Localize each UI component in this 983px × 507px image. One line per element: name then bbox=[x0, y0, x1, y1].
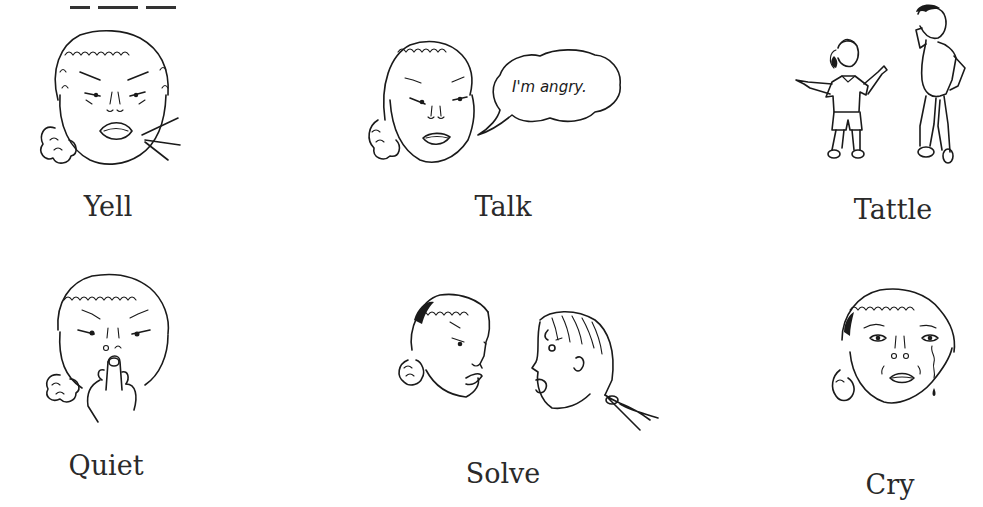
choice-label-tattle: Tattle bbox=[854, 196, 932, 223]
quiet-face-icon bbox=[0, 250, 330, 507]
choice-label-solve: Solve bbox=[466, 460, 541, 487]
choice-card-solve[interactable]: Solve bbox=[380, 260, 680, 507]
choice-card-talk[interactable]: I'm angry. Talk bbox=[340, 0, 670, 240]
speech-bubble-text: I'm angry. bbox=[512, 78, 587, 96]
choice-card-tattle[interactable]: Tattle bbox=[760, 0, 983, 240]
yelling-face-icon bbox=[0, 0, 330, 240]
choice-card-quiet[interactable]: Quiet bbox=[0, 250, 330, 507]
choice-card-yell[interactable]: Yell bbox=[0, 0, 330, 240]
choice-card-cry[interactable]: Cry bbox=[780, 260, 983, 507]
choice-label-yell: Yell bbox=[84, 193, 133, 220]
choice-label-talk: Talk bbox=[474, 193, 531, 220]
choice-label-cry: Cry bbox=[866, 471, 915, 498]
choice-label-quiet: Quiet bbox=[69, 452, 144, 479]
